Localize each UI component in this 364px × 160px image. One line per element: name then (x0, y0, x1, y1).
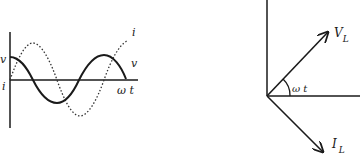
angle-arc (283, 79, 290, 96)
voltage-phasor-label: VL (334, 26, 349, 44)
current-curve-i (10, 41, 127, 116)
v-curve-label: v (131, 57, 138, 70)
current-phasor-subscript: L (338, 145, 345, 155)
current-phasor-label: IL (331, 137, 345, 155)
current-phasor-symbol: I (331, 137, 337, 151)
diagram-canvas: v i i v ω t ω t VL IL (0, 0, 364, 160)
i-curve-label: i (132, 26, 136, 39)
time-axis-label: ω t (117, 84, 134, 97)
voltage-curve-v (10, 55, 126, 103)
current-phasor-arrow (267, 96, 323, 152)
waveform-graph: v i i v ω t (0, 26, 138, 128)
v-axis-label: v (0, 53, 7, 66)
angle-label: ω t (292, 83, 308, 94)
voltage-phasor-subscript: L (342, 34, 349, 44)
phasor-diagram: ω t VL IL (267, 0, 360, 155)
i-axis-label: i (2, 80, 6, 93)
